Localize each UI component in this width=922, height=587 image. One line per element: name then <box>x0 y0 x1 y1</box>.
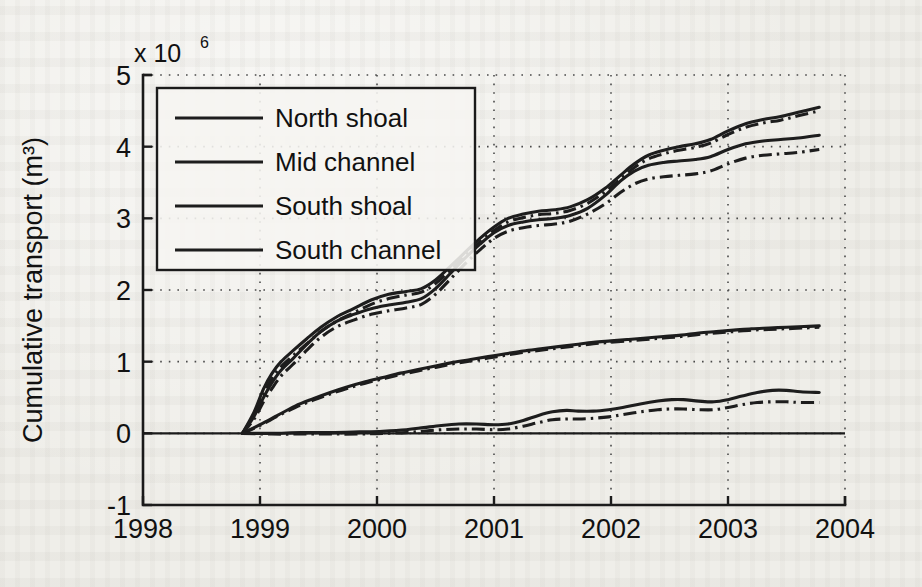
legend-label: South channel <box>275 235 441 265</box>
y-tick-label: 2 <box>116 276 131 306</box>
y-axis-exponent-label: x 106 <box>134 34 209 67</box>
legend-label: Mid channel <box>275 147 415 177</box>
x-tick-label: 1998 <box>113 514 173 544</box>
x-tick-label: 2004 <box>815 514 875 544</box>
series-south-channel <box>242 390 819 433</box>
x-tick-label: 2003 <box>698 514 758 544</box>
y-tick-label: 5 <box>116 61 131 91</box>
exponent-base-text: x 10 <box>134 39 181 67</box>
x-tick-label: 2000 <box>347 514 407 544</box>
exponent-power-text: 6 <box>200 34 209 51</box>
y-tick-label: 3 <box>116 204 131 234</box>
x-tick-label: 1999 <box>230 514 290 544</box>
y-axis-tick-labels: 543210-1 <box>107 61 131 521</box>
y-tick-label: 4 <box>116 133 131 163</box>
cumulative-transport-chart: 543210-1 1998199920002001200220032004 Cu… <box>0 0 922 587</box>
chart-canvas: 543210-1 1998199920002001200220032004 Cu… <box>0 0 922 587</box>
legend-label: South shoal <box>275 191 412 221</box>
y-tick-label: 0 <box>116 419 131 449</box>
y-tick-label: 1 <box>116 348 131 378</box>
y-axis-title-text: Cumulative transport (m³) <box>18 137 48 443</box>
x-tick-label: 2002 <box>581 514 641 544</box>
y-axis-title: Cumulative transport (m³) <box>18 137 48 443</box>
legend-label: North shoal <box>275 103 408 133</box>
x-tick-label: 2001 <box>464 514 524 544</box>
x-axis-tick-labels: 1998199920002001200220032004 <box>113 514 875 544</box>
chart-legend: North shoalMid channelSouth shoalSouth c… <box>157 88 475 270</box>
